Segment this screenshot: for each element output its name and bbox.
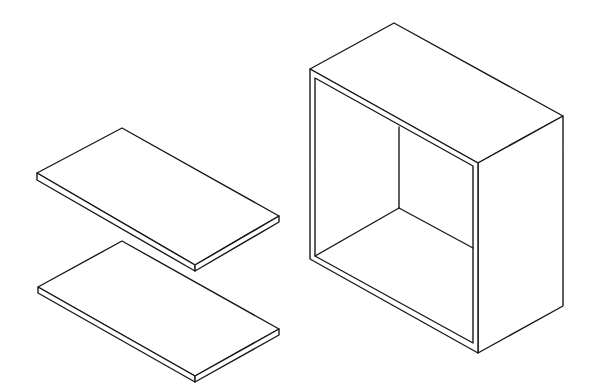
diagram-canvas: [0, 0, 590, 392]
isometric-drawing: [0, 0, 590, 392]
open-box: [310, 23, 563, 353]
bottom-panel: [38, 241, 279, 382]
top-panel: [37, 128, 279, 271]
